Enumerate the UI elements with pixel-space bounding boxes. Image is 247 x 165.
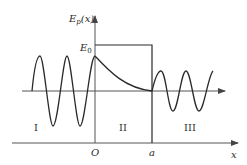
decaying-wave-region-2 [95, 56, 152, 91]
region-1-label: I [34, 122, 38, 133]
barrier-end-label: a [149, 147, 155, 158]
barrier-height-label: E0 [79, 42, 92, 55]
origin-label: O [91, 147, 99, 158]
region-2-label: II [119, 122, 127, 133]
x-axis-label: x [231, 149, 237, 160]
y-axis-label: Ep(x) [68, 13, 94, 26]
region-3-label: III [184, 122, 196, 133]
tunneling-diagram: Ep(x) E0 I II III O a x [0, 0, 247, 165]
